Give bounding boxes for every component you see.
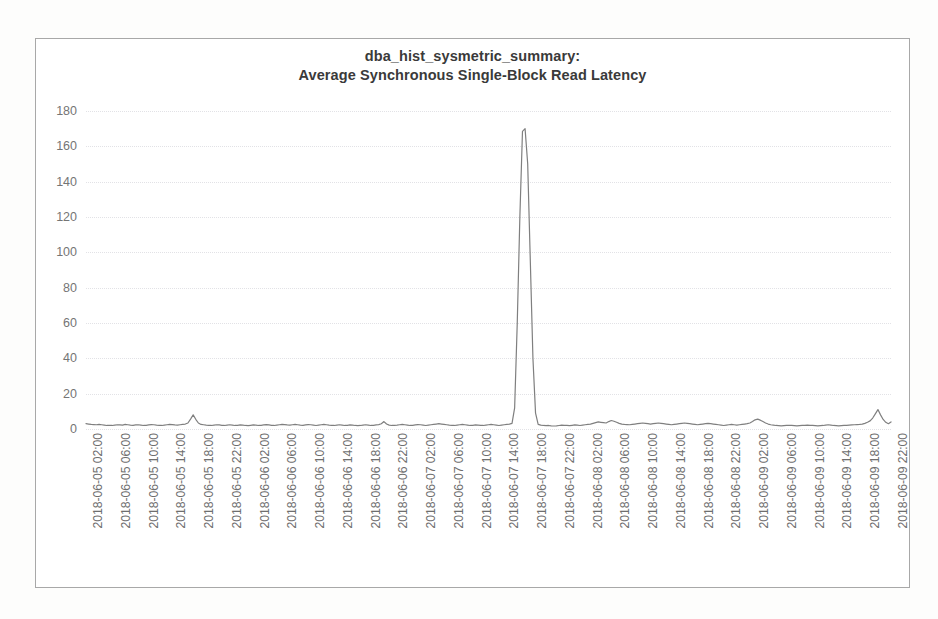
x-axis-tick-label: 2018-06-07 14:00 [507, 433, 521, 529]
y-axis-tick-label: 120 [56, 210, 77, 224]
x-axis-tick-label: 2018-06-06 02:00 [258, 433, 272, 529]
x-axis-tick-label: 2018-06-05 14:00 [174, 433, 188, 529]
chart-title: dba_hist_sysmetric_summary: Average Sync… [36, 47, 909, 85]
series-polyline [86, 129, 891, 426]
x-axis-tick-label: 2018-06-07 10:00 [480, 433, 494, 529]
x-axis-tick-label: 2018-06-09 10:00 [813, 433, 827, 529]
y-axis-tick-label: 40 [63, 351, 77, 365]
plot-area: 180160140120100806040200 [86, 111, 891, 429]
x-axis-tick-label: 2018-06-05 02:00 [91, 433, 105, 529]
x-axis-tick-label: 2018-06-08 14:00 [674, 433, 688, 529]
y-axis-tick-label: 180 [56, 104, 77, 118]
y-axis-tick-label: 20 [63, 387, 77, 401]
x-axis-tick-label: 2018-06-08 06:00 [618, 433, 632, 529]
x-axis-tick-label: 2018-06-07 06:00 [452, 433, 466, 529]
chart-title-line1: dba_hist_sysmetric_summary: [365, 48, 580, 64]
x-axis-tick-label: 2018-06-06 18:00 [369, 433, 383, 529]
x-axis-tick-label: 2018-06-08 02:00 [591, 433, 605, 529]
y-axis-tick-label: 80 [63, 281, 77, 295]
x-axis-tick-label: 2018-06-08 18:00 [702, 433, 716, 529]
x-axis-tick-label: 2018-06-06 06:00 [285, 433, 299, 529]
gridline [86, 429, 891, 431]
x-axis-tick-label: 2018-06-06 10:00 [313, 433, 327, 529]
x-axis-tick-label: 2018-06-09 14:00 [840, 433, 854, 529]
series-line-chart [86, 111, 891, 429]
x-axis-tick-label: 2018-06-09 06:00 [785, 433, 799, 529]
chart-title-line2: Average Synchronous Single-Block Read La… [36, 66, 909, 85]
x-axis-tick-label: 2018-06-08 22:00 [729, 433, 743, 529]
y-axis-tick-label: 0 [70, 422, 77, 436]
y-axis-tick-label: 140 [56, 175, 77, 189]
x-axis-tick-label: 2018-06-06 22:00 [396, 433, 410, 529]
x-axis-tick-label: 2018-06-05 18:00 [202, 433, 216, 529]
screenshot-root: dba_hist_sysmetric_summary: Average Sync… [0, 0, 938, 619]
x-axis-tick-labels: 2018-06-05 02:002018-06-05 06:002018-06-… [86, 433, 891, 583]
x-axis-tick-label: 2018-06-08 10:00 [646, 433, 660, 529]
chart-frame: dba_hist_sysmetric_summary: Average Sync… [35, 38, 910, 588]
x-axis-tick-label: 2018-06-05 10:00 [147, 433, 161, 529]
x-axis-tick-label: 2018-06-05 22:00 [230, 433, 244, 529]
y-axis-tick-label: 60 [63, 316, 77, 330]
x-axis-tick-label: 2018-06-06 14:00 [341, 433, 355, 529]
x-axis-tick-label: 2018-06-05 06:00 [119, 433, 133, 529]
x-axis-tick-label: 2018-06-09 18:00 [868, 433, 882, 529]
y-axis-tick-label: 160 [56, 139, 77, 153]
x-axis-tick-label: 2018-06-07 18:00 [535, 433, 549, 529]
x-axis-tick-label: 2018-06-09 02:00 [757, 433, 771, 529]
y-axis-tick-label: 100 [56, 245, 77, 259]
x-axis-tick-label: 2018-06-09 22:00 [896, 433, 910, 529]
x-axis-tick-label: 2018-06-07 22:00 [563, 433, 577, 529]
x-axis-tick-label: 2018-06-07 02:00 [424, 433, 438, 529]
